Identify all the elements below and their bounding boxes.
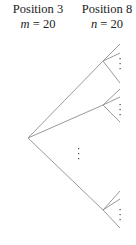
node3-branch-last: [103, 210, 120, 228]
root-branch-2: [28, 105, 103, 138]
root-branch-last: [28, 138, 103, 210]
node1-ellipsis: [120, 58, 121, 69]
root-branch-1: [28, 61, 103, 138]
node2-branch-a: [103, 89, 120, 105]
node1-branch-b: [103, 53, 120, 61]
node1-branch-a: [103, 44, 120, 61]
node3-ellipsis: [120, 209, 121, 220]
node1-branch-last: [103, 61, 120, 83]
node2-branch-last: [103, 105, 120, 122]
tree-diagram: [0, 0, 136, 245]
root-ellipsis: [78, 148, 79, 159]
node2-ellipsis: [120, 104, 121, 115]
node2-branch-b: [103, 97, 120, 105]
